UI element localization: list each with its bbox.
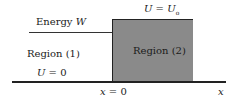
barrier-potential-label: U = Uo — [144, 4, 179, 18]
region-1-potential-label: U = 0 — [37, 68, 67, 78]
energy-label: Energy W — [36, 17, 86, 27]
region-1-label: Region (1) — [27, 49, 80, 59]
region-2-label: Region (2) — [133, 46, 186, 56]
x-axis-label: x — [218, 87, 224, 97]
x-axis-line — [12, 81, 226, 83]
energy-level-line — [29, 32, 112, 33]
origin-label: x = 0 — [100, 87, 127, 97]
